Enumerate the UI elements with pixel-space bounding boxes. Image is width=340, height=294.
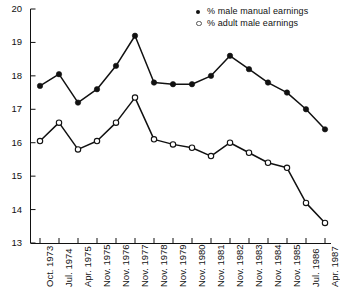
data-series <box>37 95 327 226</box>
data-point-open <box>94 138 99 143</box>
x-axis-tick-label: Nov. 1982 <box>234 244 245 287</box>
data-point-filled <box>303 107 308 112</box>
y-axis-tick-label: 16 <box>4 137 22 148</box>
axes <box>31 9 332 244</box>
x-axis-tick-label: Nov. 1983 <box>253 244 264 287</box>
x-axis-tick-label: Nov. 1985 <box>291 244 302 287</box>
x-axis-tick-label: Nov. 1978 <box>158 244 169 287</box>
x-axis-tick-label: Apr. 1975 <box>82 246 93 287</box>
y-axis-tick-label: 15 <box>4 170 22 181</box>
data-point-filled <box>227 53 232 58</box>
x-axis-tick-label: Nov. 1979 <box>177 244 188 287</box>
data-point-open <box>303 200 308 205</box>
data-point-open <box>208 153 213 158</box>
legend-item-adult-male-earnings: % adult male earnings <box>196 18 308 30</box>
data-point-filled <box>246 66 251 71</box>
filled-circle-icon <box>196 6 207 18</box>
data-point-open <box>227 140 232 145</box>
data-point-open <box>246 150 251 155</box>
x-axis-tick-label: Nov. 1984 <box>272 244 283 287</box>
y-axis-ticks <box>31 9 36 243</box>
data-point-open <box>132 95 137 100</box>
x-axis-tick-label: Jul. 1974 <box>63 248 74 287</box>
x-axis-tick-label: Nov. 1977 <box>139 244 150 287</box>
data-point-filled <box>170 82 175 87</box>
data-point-filled <box>208 73 213 78</box>
data-point-open <box>265 160 270 165</box>
y-axis-tick-label: 17 <box>4 103 22 114</box>
x-axis-tick-label: Nov. 1981 <box>215 244 226 287</box>
data-point-open <box>170 142 175 147</box>
data-point-filled <box>37 83 42 88</box>
data-series-layer <box>37 33 327 226</box>
data-point-filled <box>322 127 327 132</box>
legend-label-adult-male-earnings: % adult male earnings <box>207 18 298 30</box>
data-series <box>37 33 327 132</box>
y-axis-tick-label: 14 <box>4 204 22 215</box>
data-point-filled <box>94 87 99 92</box>
data-point-filled <box>189 82 194 87</box>
data-point-filled <box>113 63 118 68</box>
data-point-filled <box>75 100 80 105</box>
data-point-filled <box>132 33 137 38</box>
data-point-open <box>75 147 80 152</box>
data-point-open <box>189 145 194 150</box>
data-point-filled <box>151 80 156 85</box>
data-point-open <box>151 137 156 142</box>
y-axis-tick-label: 18 <box>4 70 22 81</box>
y-axis-tick-label: 20 <box>4 3 22 14</box>
open-circle-icon <box>196 18 207 30</box>
series-line <box>40 98 325 223</box>
x-axis-tick-label: Jul. 1986 <box>310 248 321 287</box>
legend-label-male-manual-earnings: % male manual earnings <box>207 6 308 18</box>
x-axis-tick-label: Oct. 1973 <box>44 246 55 287</box>
legend-item-male-manual-earnings: % male manual earnings <box>196 6 308 18</box>
data-point-filled <box>265 80 270 85</box>
series-line <box>40 36 325 130</box>
x-axis-ticks <box>40 238 325 243</box>
x-axis-tick-label: Apr. 1987 <box>329 246 340 287</box>
y-axis-tick-label: 19 <box>4 36 22 47</box>
data-point-open <box>284 165 289 170</box>
data-point-open <box>322 220 327 225</box>
data-point-open <box>56 120 61 125</box>
data-point-filled <box>56 71 61 76</box>
x-axis-tick-label: Nov. 1975 <box>101 244 112 287</box>
data-point-open <box>113 120 118 125</box>
chart-legend: % male manual earnings % adult male earn… <box>196 6 308 29</box>
x-axis-tick-label: Nov. 1980 <box>196 244 207 287</box>
data-point-open <box>37 138 42 143</box>
x-axis-tick-label: Nov. 1976 <box>120 244 131 287</box>
y-axis-tick-label: 13 <box>4 237 22 248</box>
data-point-filled <box>284 90 289 95</box>
